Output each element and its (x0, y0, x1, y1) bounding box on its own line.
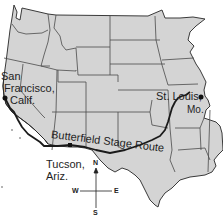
compass-s: S (93, 209, 98, 216)
label-line: St. Louis, (156, 90, 202, 102)
island (19, 137, 21, 139)
compass-w: W (72, 187, 79, 194)
map-figure: San Francisco, Calif. St. Louis, Mo. Tuc… (0, 0, 223, 223)
city-marker-tucson (68, 143, 72, 147)
label-tucson: Tucson, Ariz. (46, 158, 85, 182)
label-san-francisco: San Francisco, Calif. (1, 70, 55, 106)
label-st-louis: St. Louis, (156, 90, 202, 102)
label-line: Calif. (10, 94, 55, 106)
label-line: Francisco, (4, 82, 55, 94)
island (1, 186, 3, 188)
island (11, 129, 13, 131)
label-line: Ariz. (46, 170, 85, 182)
compass-e: E (114, 187, 119, 194)
label-missouri: Mo. (187, 104, 204, 116)
label-line: San (1, 70, 55, 82)
label-line: Tucson, (46, 158, 85, 170)
label-line: Mo. (187, 104, 204, 116)
compass-rose (80, 168, 112, 208)
compass-n: N (93, 159, 98, 166)
